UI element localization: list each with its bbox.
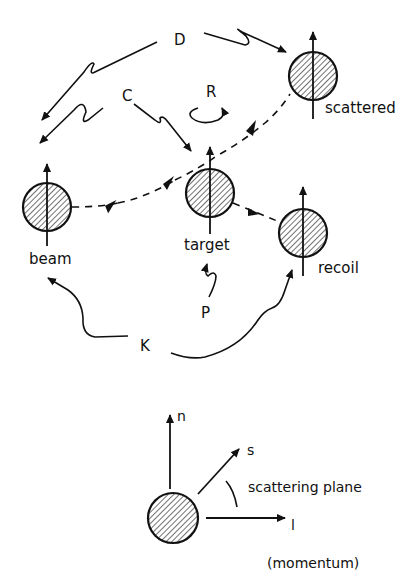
scattering-plane-arc: [226, 481, 237, 507]
target-label: target: [184, 236, 230, 254]
beam-label: beam: [29, 250, 72, 268]
label-s: s: [247, 442, 254, 458]
label-C: C: [122, 87, 132, 105]
label-K: K: [140, 337, 151, 355]
trajectories: [72, 94, 290, 223]
K-arrows: [48, 270, 292, 358]
frame-particle: [148, 493, 198, 543]
scattering-plane-label: scattering plane: [248, 479, 362, 495]
R-rotation-arrow: [190, 108, 223, 123]
recoil-label: recoil: [318, 259, 359, 277]
label-P: P: [201, 304, 210, 322]
label-l: l: [291, 517, 295, 533]
C-arrow: [134, 104, 191, 151]
s-axis-arrow: [198, 449, 239, 494]
scattered-label: scattered: [325, 99, 396, 117]
label-R: R: [206, 83, 216, 101]
label-n: n: [177, 408, 186, 424]
P-arrow: [206, 264, 216, 297]
momentum-label: (momentum): [267, 555, 359, 571]
D-arrows: [40, 29, 286, 143]
spin-observables-diagram: beam target scattered recoil D C: [0, 0, 416, 586]
label-D: D: [174, 31, 186, 49]
scattered-trajectory: [175, 94, 290, 180]
trajectory-arrowheads: [104, 120, 260, 216]
beam-particle: [23, 164, 71, 246]
